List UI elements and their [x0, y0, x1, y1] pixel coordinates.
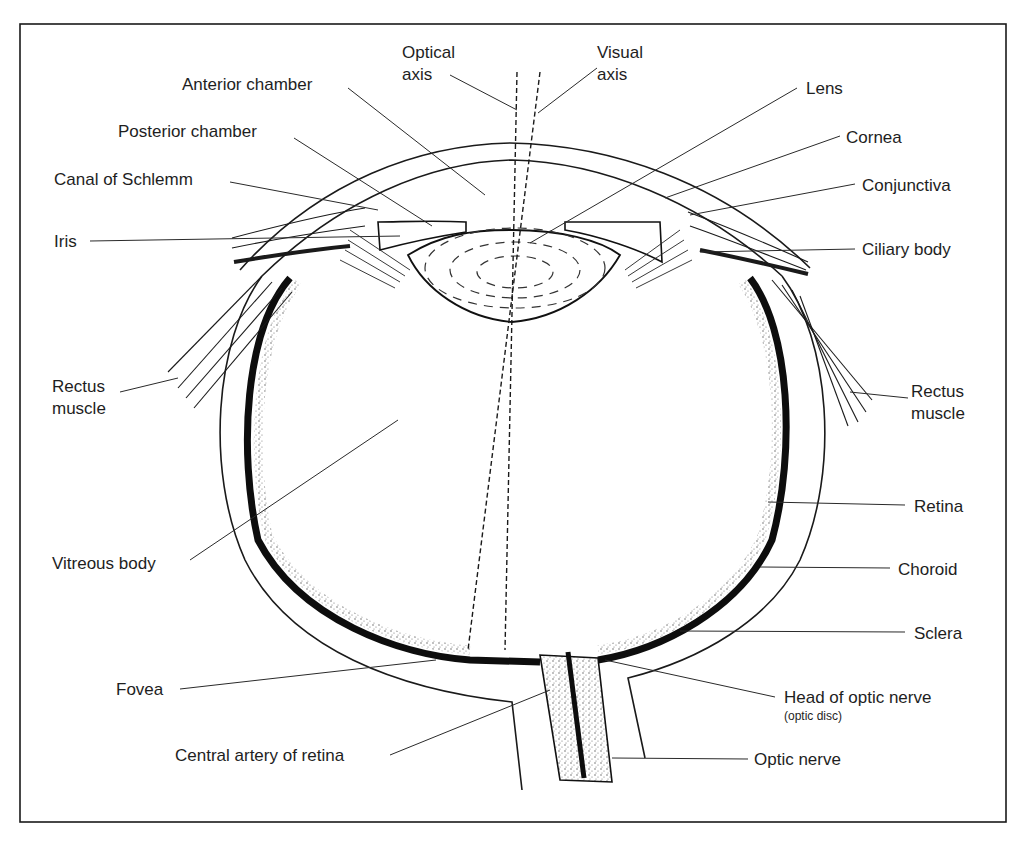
- label-posterior-chamber: Posterior chamber: [118, 122, 257, 141]
- label-lens: Lens: [806, 79, 843, 98]
- label-head-of-optic-nerve: Head of optic nerve: [784, 688, 931, 707]
- label-sclera: Sclera: [914, 624, 963, 643]
- label-central-artery: Central artery of retina: [175, 746, 345, 765]
- label-anterior-chamber: Anterior chamber: [182, 75, 313, 94]
- label-retina: Retina: [914, 497, 964, 516]
- label-choroid: Choroid: [898, 560, 958, 579]
- label-rectus-left-2: muscle: [52, 399, 106, 418]
- label-rectus-left-1: Rectus: [52, 377, 105, 396]
- label-optical-axis-1: Optical: [402, 43, 455, 62]
- label-ciliary-body: Ciliary body: [862, 240, 951, 259]
- label-visual-axis-1: Visual: [597, 43, 643, 62]
- label-rectus-right-1: Rectus: [911, 382, 964, 401]
- label-fovea: Fovea: [116, 680, 164, 699]
- label-canal-of-schlemm: Canal of Schlemm: [54, 170, 193, 189]
- label-optic-disc: (optic disc): [784, 709, 842, 723]
- label-optical-axis-2: axis: [402, 65, 432, 84]
- eye-anatomy-diagram: Optical axis Visual axis Anterior chambe…: [0, 0, 1023, 842]
- label-cornea: Cornea: [846, 128, 902, 147]
- label-visual-axis-2: axis: [597, 65, 627, 84]
- label-rectus-right-2: muscle: [911, 404, 965, 423]
- label-conjunctiva: Conjunctiva: [862, 176, 951, 195]
- label-vitreous-body: Vitreous body: [52, 554, 156, 573]
- label-optic-nerve: Optic nerve: [754, 750, 841, 769]
- label-iris: Iris: [54, 232, 77, 251]
